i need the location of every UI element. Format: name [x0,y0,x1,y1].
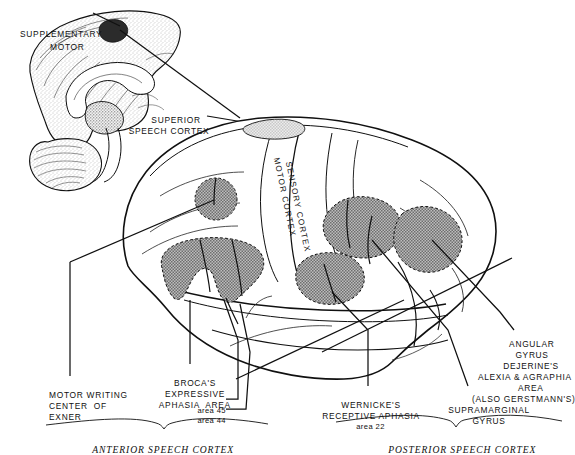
wernickes-area [296,253,365,305]
supramarginal-label-2: GYRUS [430,405,542,426]
motor-writing-line3: EXNER [49,412,81,422]
posterior-speech-cortex-label: POSTERIOR SPEECH CORTEX [350,434,568,455]
angular-line6: (ALSO GERSTMANN'S) [472,394,575,404]
supplementary-motor-label-2: MOTOR [44,31,85,52]
posterior-speech-cortex-text: POSTERIOR SPEECH CORTEX [388,444,536,455]
supplementary-motor-line2: MOTOR [50,42,85,52]
superior-speech-cortex-label-2: SPEECH CORTEX [118,115,214,136]
anterior-speech-cortex-text: ANTERIOR SPEECH CORTEX [92,444,234,455]
motor-writing-center-label-3: EXNER [43,401,81,422]
area-22-label: area 22 [318,411,418,432]
exner-writing-center-area [195,178,237,220]
anterior-speech-cortex-label: ANTERIOR SPEECH CORTEX [60,434,260,455]
area-44-text: area 44 [197,416,226,425]
gerstmanns-label: (ALSO GERSTMANN'S) [466,383,574,404]
superior-speech-line2: SPEECH CORTEX [129,126,210,136]
area-22-text: area 22 [356,422,385,431]
supramarginal-line2: GYRUS [472,416,505,426]
area-44-label: area 44 [166,405,226,426]
